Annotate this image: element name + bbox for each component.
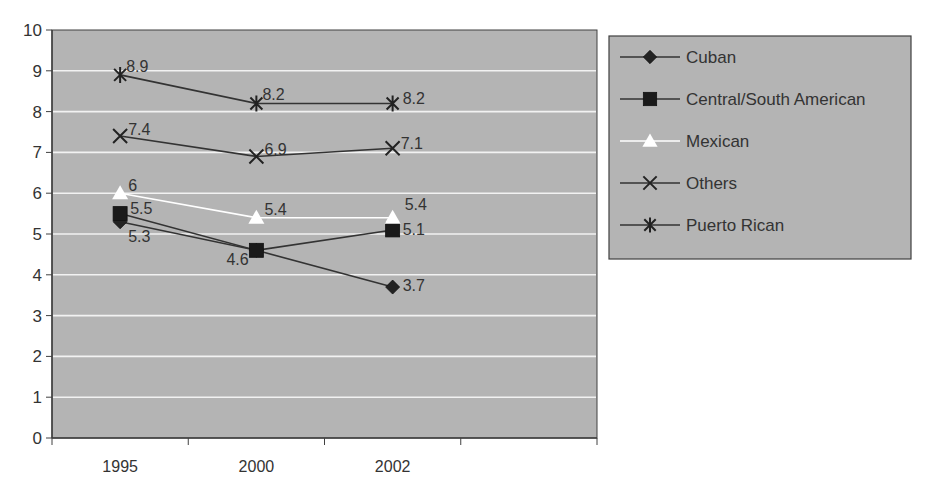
data-label: 7.4: [128, 121, 150, 138]
data-label: 5.4: [264, 201, 286, 218]
line-chart: 012345678910 199520002002 5.33.75.54.65.…: [0, 0, 931, 501]
legend-label: Puerto Rican: [686, 216, 784, 235]
square-marker-icon: [249, 243, 263, 257]
y-tick-label: 2: [33, 347, 42, 366]
y-axis: 012345678910: [23, 21, 52, 448]
y-tick-label: 8: [33, 103, 42, 122]
data-label: 5.1: [403, 221, 425, 238]
y-tick-label: 10: [23, 21, 42, 40]
y-tick-label: 7: [33, 143, 42, 162]
data-label: 5.5: [130, 200, 152, 217]
data-label: 6.9: [264, 141, 286, 158]
data-label: 3.7: [403, 277, 425, 294]
x-tick-label: 2002: [375, 458, 411, 475]
data-label: 8.2: [403, 90, 425, 107]
y-tick-label: 6: [33, 184, 42, 203]
data-label: 5.4: [405, 196, 427, 213]
data-label: 8.2: [262, 86, 284, 103]
legend-label: Mexican: [686, 132, 749, 151]
data-label: 8.9: [126, 58, 148, 75]
data-label: 5.3: [128, 228, 150, 245]
x-tick-label: 1995: [102, 458, 138, 475]
y-tick-label: 4: [33, 266, 42, 285]
y-tick-label: 3: [33, 307, 42, 326]
x-tick-label: 2000: [239, 458, 275, 475]
y-tick-label: 5: [33, 225, 42, 244]
y-tick-label: 0: [33, 429, 42, 448]
legend-label: Cuban: [686, 48, 736, 67]
data-label: 6: [128, 177, 137, 194]
legend-label: Others: [686, 174, 737, 193]
y-tick-label: 9: [33, 62, 42, 81]
x-axis: 199520002002: [52, 438, 597, 475]
y-tick-label: 1: [33, 388, 42, 407]
square-marker-icon: [386, 223, 400, 237]
data-label: 7.1: [401, 135, 423, 152]
data-label: 4.6: [226, 251, 248, 268]
square-marker-icon: [113, 207, 127, 221]
legend: CubanCentral/South AmericanMexicanOthers…: [609, 36, 911, 259]
legend-label: Central/South American: [686, 90, 866, 109]
square-marker-icon: [643, 92, 656, 105]
